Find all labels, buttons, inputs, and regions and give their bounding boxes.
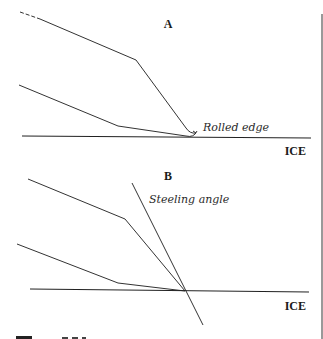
blade-profile-lower-b [17, 244, 185, 291]
blade-edge-diagram: A Rolled edge ICE B Steeling angle ICE [0, 0, 323, 339]
rolled-edge-label: Rolled edge [202, 121, 270, 134]
blade-profile-lower [19, 85, 197, 136]
ice-label-a: ICE [285, 144, 306, 158]
panel-a-title: A [164, 17, 173, 31]
panel-a: A Rolled edge ICE [19, 12, 311, 158]
ice-label-b: ICE [285, 299, 306, 313]
ice-surface-a [22, 136, 311, 138]
panel-b-title: B [164, 169, 172, 183]
panel-b: B Steeling angle ICE [17, 169, 309, 325]
blade-profile-upper-faded [20, 12, 40, 19]
blade-profile-upper [40, 19, 196, 133]
steeling-angle-label: Steeling angle [149, 193, 230, 206]
